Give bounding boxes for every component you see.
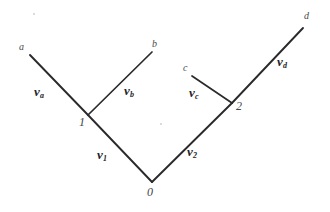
vector-label-v2: v2 (187, 145, 197, 160)
scan-speck (33, 13, 35, 15)
vector-subscript: c (195, 92, 199, 101)
leaf-label-b: b (152, 39, 157, 49)
edge-node1-to-leaf-b (88, 52, 152, 115)
vector-subscript: 1 (103, 154, 107, 163)
vector-base: v (34, 84, 40, 99)
vector-base: v (97, 147, 103, 162)
node-label-1: 1 (79, 116, 85, 128)
vector-base: v (189, 85, 195, 100)
vector-label-va: va (34, 85, 44, 100)
vector-base: v (187, 144, 193, 159)
vector-subscript: 2 (193, 151, 197, 160)
edge-group (30, 28, 303, 182)
figure-container: a b c d 0 1 2 v1 v2 va vb vc vd (0, 0, 330, 212)
scan-speck (160, 123, 162, 125)
vector-label-vc: vc (189, 86, 199, 101)
tree-diagram-canvas (0, 0, 330, 212)
vector-base: v (124, 83, 130, 98)
vector-label-vd: vd (277, 55, 287, 70)
vector-base: v (277, 54, 283, 69)
edge-node2-to-leaf-d (232, 28, 303, 103)
vector-label-vb: vb (124, 84, 134, 99)
node-label-0: 0 (147, 186, 153, 198)
vector-label-v1: v1 (97, 148, 107, 163)
edge-root-to-node2 (152, 103, 232, 182)
vector-subscript: d (283, 61, 287, 70)
leaf-label-d: d (304, 11, 309, 21)
leaf-label-a: a (19, 42, 24, 52)
node-label-2: 2 (236, 100, 242, 112)
leaf-label-c: c (183, 63, 188, 73)
vector-subscript: b (130, 90, 134, 99)
vector-subscript: a (40, 91, 44, 100)
